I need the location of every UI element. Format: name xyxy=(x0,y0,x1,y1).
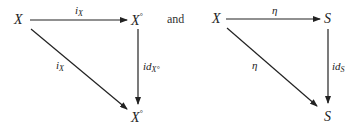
node-superscript: ° xyxy=(140,109,143,118)
arrow-label-sub: X° xyxy=(152,65,160,74)
node-label: X xyxy=(131,110,140,125)
arrow-diagonal-left xyxy=(31,29,127,109)
label-arrow-vertical-left: idX° xyxy=(143,61,160,74)
arrow-label-sub: X xyxy=(59,64,64,73)
arrow-label-main: id xyxy=(332,60,341,72)
label-arrow-top-left: iX xyxy=(75,5,83,18)
arrow-diagonal-right xyxy=(227,28,317,106)
node-s-top: S xyxy=(324,12,331,26)
node-x-star-top: X° xyxy=(131,13,143,28)
node-superscript: ° xyxy=(140,12,143,21)
label-arrow-vertical-right: idS xyxy=(332,61,345,74)
connector-and: and xyxy=(167,12,184,27)
node-x-source-right: X xyxy=(212,12,221,26)
arrow-label-sub: S xyxy=(341,65,345,74)
arrow-label-main: id xyxy=(143,60,152,72)
node-x-star-bottom: X° xyxy=(131,110,143,125)
node-label: X xyxy=(131,13,140,28)
label-arrow-diagonal-left: iX xyxy=(56,60,64,73)
arrow-label-sub: X xyxy=(78,9,83,18)
node-s-bottom: S xyxy=(324,110,331,124)
label-arrow-diagonal-right: η xyxy=(252,60,257,71)
label-arrow-top-right: η xyxy=(272,5,277,16)
node-x-source: X xyxy=(14,13,23,27)
